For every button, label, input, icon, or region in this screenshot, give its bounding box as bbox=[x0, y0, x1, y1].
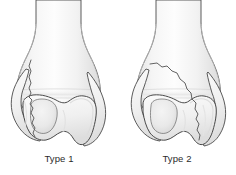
caption-row: Type 1 Type 2 bbox=[0, 152, 236, 170]
panel-type-1 bbox=[11, 0, 105, 146]
distal-humerus-fracture-figure bbox=[0, 0, 236, 175]
caption-type-2: Type 2 bbox=[118, 152, 236, 170]
caption-type-1: Type 1 bbox=[0, 152, 118, 170]
panel-type-2 bbox=[131, 0, 225, 146]
figure-panel: Type 1 Type 2 bbox=[0, 0, 236, 175]
